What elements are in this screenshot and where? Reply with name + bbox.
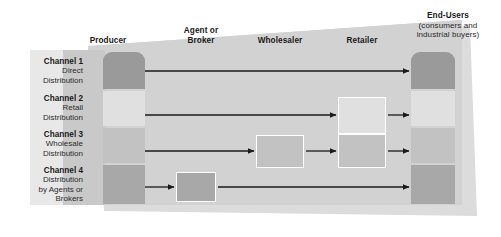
distribution-channels-diagram: Producer Agent or Broker Wholesaler Reta… xyxy=(0,0,501,237)
arrow-layer xyxy=(0,0,501,237)
